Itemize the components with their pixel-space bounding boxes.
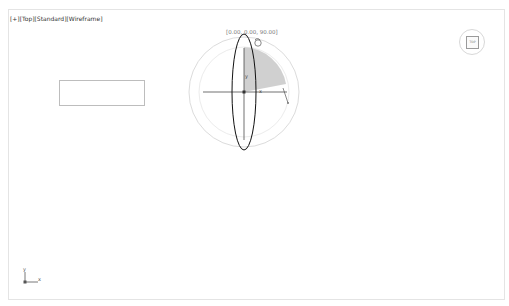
gizmo-y-label: y <box>245 73 248 79</box>
rotate-tangent-handle[interactable] <box>283 88 288 103</box>
tripod-origin-icon <box>24 281 27 284</box>
tripod-x-label: x <box>38 276 41 282</box>
gizmo-pivot-icon <box>243 91 246 94</box>
rectangle-object[interactable] <box>59 80 145 106</box>
rotation-readout: [0.00, 0.00, 90.00] <box>226 29 278 35</box>
rotation-angle-wedge <box>244 47 286 92</box>
tangent-handle-end[interactable] <box>287 102 289 104</box>
gizmo-x-label: x <box>259 88 262 94</box>
viewcube[interactable]: TOP <box>459 29 485 55</box>
tripod-y-label: y <box>23 266 26 272</box>
scene-canvas[interactable] <box>0 0 509 306</box>
rotate-cursor-icon <box>255 39 261 47</box>
viewcube-top-face[interactable]: TOP <box>466 36 479 49</box>
